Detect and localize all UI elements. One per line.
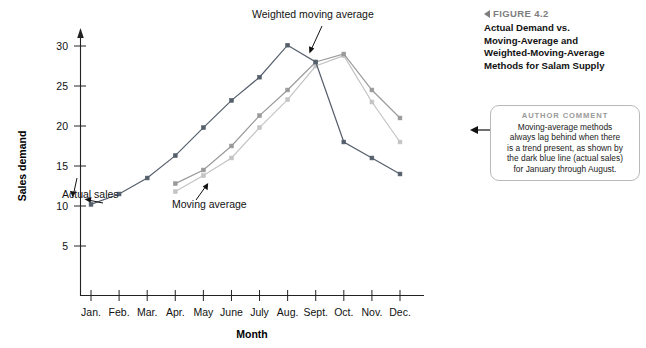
series-line (91, 45, 400, 204)
data-point-marker (370, 100, 374, 104)
data-point-marker (342, 52, 346, 56)
x-tick-label: Aug. (277, 306, 299, 318)
data-point-marker (173, 190, 177, 194)
y-axis-title: Sales demand (16, 131, 28, 202)
x-tick-label: Jan. (81, 306, 101, 318)
data-point-marker (314, 60, 318, 64)
author-comment-box: AUTHOR COMMENT Moving-average methods al… (490, 105, 640, 181)
data-point-marker (202, 168, 206, 172)
figure-caption-line-1: Actual Demand vs. (484, 22, 644, 35)
data-point-marker (202, 174, 206, 178)
data-point-marker (173, 182, 177, 186)
sales-demand-line-chart: 51015202530 Jan.Feb.Mar.Apr.MayJuneJulyA… (0, 0, 440, 348)
data-point-marker (286, 98, 290, 102)
author-comment-title: AUTHOR COMMENT (496, 111, 634, 121)
figure-caption-line-4: Methods for Salam Supply (484, 60, 644, 73)
data-point-marker (286, 88, 290, 92)
author-comment-line-2: always lag behind when there (496, 132, 634, 142)
data-point-marker (398, 116, 402, 120)
data-point-marker (230, 156, 234, 160)
data-point-marker (398, 172, 402, 176)
data-point-marker (370, 88, 374, 92)
x-tick-label: Feb. (109, 306, 130, 318)
y-tick-label: 25 (56, 80, 68, 92)
x-tick-label: July (250, 306, 269, 318)
x-tick-label: June (220, 306, 243, 318)
data-point-marker (145, 176, 149, 180)
data-point-marker (258, 75, 262, 79)
svg-text:Moving average: Moving average (172, 198, 247, 210)
x-tick-label: May (193, 306, 214, 318)
series-line (175, 56, 400, 192)
series-weighted-moving-average (173, 52, 402, 185)
data-point-marker (202, 126, 206, 130)
x-tick-label: Nov. (362, 306, 383, 318)
x-tick-label: Mar. (137, 306, 157, 318)
figure-number-line: FIGURE 4.2 (484, 7, 644, 20)
y-tick-label: 10 (56, 200, 68, 212)
figure-caption-line-2: Moving-Average and (484, 35, 644, 48)
y-tick-label: 15 (56, 160, 68, 172)
y-axis (77, 28, 84, 296)
figure-page: 51015202530 Jan.Feb.Mar.Apr.MayJuneJulyA… (0, 0, 646, 348)
annotation-actual-sales: Actual sales (62, 178, 119, 203)
x-tick-label: Apr. (166, 306, 185, 318)
data-point-marker (342, 140, 346, 144)
x-axis-tick-labels: Jan.Feb.Mar.Apr.MayJuneJulyAug.Sept.Oct.… (81, 306, 411, 318)
x-axis-title: Month (236, 328, 268, 340)
author-comment-line-1: Moving-average methods (496, 122, 634, 132)
figure-number: FIGURE 4.2 (493, 8, 549, 19)
data-point-marker (258, 126, 262, 130)
data-point-marker (286, 43, 290, 47)
data-point-marker (370, 156, 374, 160)
data-point-marker (398, 140, 402, 144)
annotation-weighted-moving-average: Weighted moving average (252, 8, 374, 54)
x-tick-label: Oct. (334, 306, 353, 318)
data-point-marker (230, 144, 234, 148)
author-comment-line-4: the dark blue line (actual sales) (496, 153, 634, 163)
x-tick-label: Sept. (303, 306, 328, 318)
chart-panel: 51015202530 Jan.Feb.Mar.Apr.MayJuneJulyA… (0, 0, 440, 348)
author-comment-line-3: is a trend present, as shown by (496, 143, 634, 153)
y-tick-label: 20 (56, 120, 68, 132)
x-tick-label: Dec. (389, 306, 411, 318)
figure-caption: Actual Demand vs. Moving-Average and Wei… (484, 22, 644, 72)
left-triangle-icon (484, 10, 490, 18)
series-line (175, 54, 400, 184)
data-point-marker (258, 114, 262, 118)
data-point-marker (89, 203, 93, 207)
svg-text:Weighted moving average: Weighted moving average (252, 8, 374, 20)
data-point-marker (230, 99, 234, 103)
y-tick-label: 5 (62, 240, 68, 252)
figure-header: FIGURE 4.2 Actual Demand vs. Moving-Aver… (484, 7, 644, 72)
y-tick-label: 30 (56, 40, 68, 52)
author-comment-line-5: for January through August. (496, 164, 634, 174)
right-column: FIGURE 4.2 Actual Demand vs. Moving-Aver… (456, 0, 646, 348)
y-axis-tick-labels: 51015202530 (56, 40, 68, 252)
figure-caption-line-3: Weighted-Moving-Average (484, 47, 644, 60)
data-point-marker (173, 154, 177, 158)
author-comment-body: Moving-average methods always lag behind… (496, 122, 634, 174)
